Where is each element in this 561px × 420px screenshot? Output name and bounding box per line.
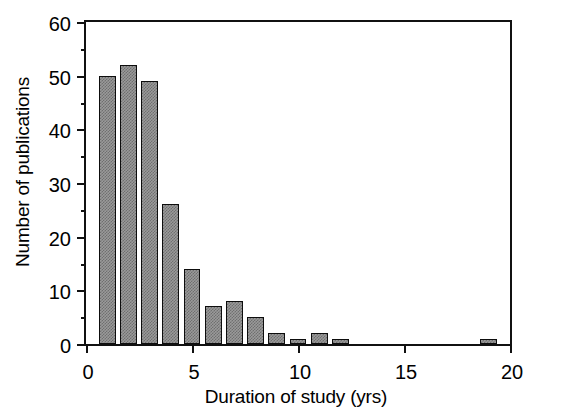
x-axis-tick-label: 15: [395, 361, 417, 384]
bar: [332, 339, 349, 344]
x-axis-tick-label: 0: [82, 361, 93, 384]
y-axis-minor-tick: [81, 156, 86, 158]
x-axis-tick: 5: [192, 344, 194, 353]
plot-inner: 010203040506005101520: [86, 22, 510, 344]
x-axis-tick: 10: [298, 344, 300, 353]
y-axis-minor-tick: [81, 317, 86, 319]
plot-area: 010203040506005101520: [84, 20, 512, 346]
bar: [226, 301, 243, 344]
x-axis-tick-label: 10: [289, 361, 311, 384]
y-axis-title: Number of publications: [6, 0, 40, 352]
x-axis-tick-label: 20: [501, 361, 523, 384]
bar: [205, 306, 222, 344]
y-axis-minor-tick: [81, 49, 86, 51]
bar: [99, 76, 116, 344]
x-axis-tick: 20: [510, 344, 512, 353]
y-axis-tick-label: 20: [49, 227, 71, 250]
x-axis-tick: 15: [404, 344, 406, 353]
y-axis-tick: 20: [77, 237, 86, 239]
y-axis-tick-label: 40: [49, 120, 71, 143]
y-axis-tick-label: 10: [49, 281, 71, 304]
bar: [141, 81, 158, 344]
bar: [162, 204, 179, 344]
bar: [480, 339, 497, 344]
y-axis-minor-tick: [81, 264, 86, 266]
bar: [247, 317, 264, 344]
y-axis-tick: 30: [77, 183, 86, 185]
y-axis-tick-label: 30: [49, 174, 71, 197]
y-axis-tick: 0: [77, 344, 86, 346]
y-axis-tick: 10: [77, 290, 86, 292]
y-axis-minor-tick: [81, 210, 86, 212]
x-axis-tick-label: 5: [188, 361, 199, 384]
y-axis-tick-label: 50: [49, 66, 71, 89]
y-axis-minor-tick: [81, 103, 86, 105]
y-axis-tick: 50: [77, 76, 86, 78]
bar: [311, 333, 328, 344]
y-axis-tick: 60: [77, 22, 86, 24]
bar: [184, 269, 201, 344]
bar: [120, 65, 137, 344]
bar: [268, 333, 285, 344]
x-axis-tick: 0: [86, 344, 88, 353]
x-axis-title: Duration of study (yrs): [84, 386, 508, 408]
y-axis-tick-label: 60: [49, 13, 71, 36]
histogram-figure: Number of publications 01020304050600510…: [0, 0, 561, 420]
y-axis-tick-label: 0: [60, 335, 71, 358]
y-axis-tick: 40: [77, 129, 86, 131]
